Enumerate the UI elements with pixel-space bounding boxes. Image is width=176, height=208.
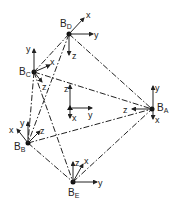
y-label: y: [155, 83, 160, 93]
y-label: y: [88, 110, 93, 120]
x-label: x: [86, 10, 91, 20]
z-label: z: [75, 158, 80, 168]
center-reference-frame: z y x: [64, 84, 93, 123]
edge-c-a: [34, 72, 152, 109]
x-label: x: [50, 57, 55, 67]
node-label: BB: [14, 141, 26, 153]
node-label: BD: [60, 18, 72, 30]
y-label: y: [98, 178, 103, 188]
z-label: z: [72, 51, 77, 61]
x-label: x: [155, 115, 160, 125]
x-label: x: [9, 125, 14, 135]
node-label: BA: [157, 102, 169, 114]
x-label: x: [72, 113, 77, 123]
y-label: y: [94, 30, 99, 40]
node-label: BC: [19, 66, 31, 78]
y-label: y: [20, 118, 25, 128]
node-b-b: BB y x z: [9, 118, 45, 153]
z-label: z: [64, 84, 69, 94]
edge-d-a: [69, 34, 152, 109]
y-label: y: [26, 44, 31, 54]
x-axis-arrow: [34, 65, 50, 72]
z-label: z: [40, 126, 45, 136]
z-label: z: [42, 82, 47, 92]
node-b-e: BE y z x: [68, 156, 103, 199]
beacon-network-diagram: BD x y z BC y x z BB y x z BA y z x: [0, 0, 176, 208]
z-axis-arrow: [28, 131, 40, 143]
edge-c-b: [28, 72, 34, 143]
z-label: z: [123, 105, 128, 115]
node-label: BE: [68, 187, 80, 199]
node-b-d: BD x y z: [60, 10, 99, 61]
x-label: x: [84, 156, 89, 166]
edge-e-a: [73, 109, 152, 182]
